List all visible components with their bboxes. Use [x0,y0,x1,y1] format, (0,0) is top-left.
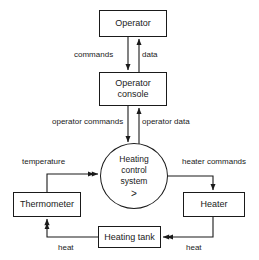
diagram-connectors [0,0,259,260]
edge-label-temperature: temperature [22,157,65,167]
node-heating-control-system-label-line2: control [121,165,147,176]
node-heating-control-system-label-line1: Heating [119,154,148,165]
node-heating-tank[interactable]: Heating tank [98,226,161,248]
node-operator-console-label-line1: Operator [115,78,151,89]
node-operator[interactable]: Operator [99,10,167,37]
node-heater-label: Heater [200,199,227,210]
node-operator-console-label-line2: console [117,89,148,100]
node-heating-control-system[interactable]: Heating control system > [100,143,168,209]
data-flow-diagram: Operator Operator console Heating contro… [0,0,259,260]
node-operator-console[interactable]: Operator console [99,72,167,106]
edge-label-heat-left: heat [58,243,74,253]
edge-label-commands: commands [74,50,113,60]
node-heating-control-system-marker-icon: > [131,188,137,199]
node-thermometer[interactable]: Thermometer [13,192,81,217]
edge-label-heat-right: heat [186,243,202,253]
node-thermometer-label: Thermometer [20,199,74,210]
node-heating-control-system-label-line3: system [121,176,148,187]
edge-heater-commands-line [168,176,213,190]
edge-label-data: data [142,50,158,60]
node-heating-tank-label: Heating tank [104,232,155,243]
node-heater[interactable]: Heater [183,192,245,217]
edge-label-operator-commands: operator commands [52,117,123,127]
edge-label-operator-data: operator data [142,117,190,127]
edge-temperature-line [47,174,98,192]
edge-heat-left-line [47,219,98,237]
node-operator-label: Operator [115,18,151,29]
edge-label-heater-commands: heater commands [182,157,246,167]
edge-heat-right-line [163,217,213,237]
